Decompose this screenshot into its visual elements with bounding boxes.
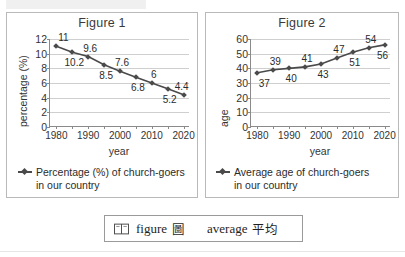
y-axis-tick-label: 20 <box>236 92 248 104</box>
vocab-word-2-zh: 平均 <box>252 219 278 238</box>
y-axis-tick-label: 10 <box>35 48 47 60</box>
line-marker-icon <box>216 166 230 178</box>
cut-off-text-strip <box>6 0 146 9</box>
y-axis-tick-mark <box>248 127 251 128</box>
figure-2-plot-area: 0102030405060198019902000201020203739404… <box>250 39 390 127</box>
figure-1-y-axis-label: percentage (%) <box>17 55 29 127</box>
y-axis-tick-label: 40 <box>236 62 248 74</box>
data-point-label: 9.6 <box>83 42 97 53</box>
data-point-label: 39 <box>270 55 281 66</box>
data-point-label: 37 <box>259 77 270 88</box>
x-axis-tick-label: 2000 <box>310 130 332 141</box>
data-point-label: 4.4 <box>175 80 189 91</box>
figure-2-x-axis-label: year <box>250 145 390 157</box>
data-point-label: 6 <box>151 69 157 80</box>
data-point-label: 47 <box>333 44 344 55</box>
data-series-line <box>251 39 391 127</box>
figure-2-legend-line-2: in our country <box>234 179 392 192</box>
data-point-label: 43 <box>317 68 328 79</box>
data-point-label: 8.5 <box>99 69 113 80</box>
figure-2-legend: Average age of church-goers in our count… <box>216 166 392 191</box>
figure-1-legend-line-2: in our country <box>36 179 188 192</box>
vocabulary-box: figure 圖 average 平均 <box>104 215 303 242</box>
figure-1-plot-area: 024681012198019902000201020201110.29.68.… <box>49 39 189 127</box>
vocab-word-1-zh: 圖 <box>172 219 185 238</box>
y-axis-tick-label: 30 <box>236 77 248 89</box>
data-point-label: 7.6 <box>115 57 129 68</box>
x-axis-tick-label: 1980 <box>246 130 268 141</box>
x-axis-tick-label: 2010 <box>342 130 364 141</box>
data-point-label: 5.2 <box>163 93 177 104</box>
x-axis-tick-label: 1990 <box>77 130 99 141</box>
figure-2-title: Figure 2 <box>206 16 398 30</box>
data-point-label: 56 <box>377 49 388 60</box>
page-bottom-divider <box>0 251 405 252</box>
x-axis-tick-label: 2020 <box>173 130 195 141</box>
data-point-label: 6.8 <box>131 82 145 93</box>
figure-1-title: Figure 1 <box>7 16 197 30</box>
y-axis-tick-label: 10 <box>236 106 248 118</box>
x-axis-tick-label: 2020 <box>374 130 396 141</box>
y-axis-tick-label: 50 <box>236 48 248 60</box>
open-book-icon <box>114 223 129 235</box>
line-marker-icon <box>18 166 32 178</box>
data-point-label: 41 <box>302 52 313 63</box>
x-axis-tick-label: 2010 <box>141 130 163 141</box>
figure-1-legend-line-1: Percentage (%) of church-goers <box>36 166 188 179</box>
vocab-word-1-en: figure <box>136 221 167 237</box>
x-axis-tick-label: 2000 <box>109 130 131 141</box>
y-axis-tick-label: 60 <box>236 33 248 45</box>
data-point-label: 11 <box>58 32 68 43</box>
worksheet-page: Figure 1 0246810121980199020002010202011… <box>0 0 405 257</box>
y-axis-tick-label: 12 <box>35 33 47 45</box>
x-axis-tick-label: 1980 <box>45 130 67 141</box>
figure-2-y-axis-label: age <box>218 109 230 127</box>
data-point-label: 10.2 <box>65 57 84 68</box>
figure-1-x-axis-label: year <box>49 145 189 157</box>
figure-1-legend: Percentage (%) of church-goers in our co… <box>18 166 188 191</box>
data-point-label: 40 <box>286 73 297 84</box>
figure-2-legend-line-1: Average age of church-goers <box>234 166 392 179</box>
y-axis-tick-mark <box>47 127 50 128</box>
data-point-label: 51 <box>349 57 360 68</box>
x-axis-tick-label: 1990 <box>278 130 300 141</box>
vocab-word-2-en: average <box>207 221 247 237</box>
data-point-label: 54 <box>365 33 376 44</box>
